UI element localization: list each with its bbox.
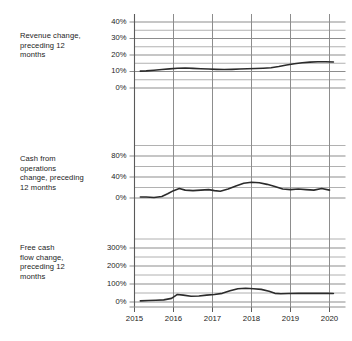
data-line-panel-3	[140, 288, 333, 301]
x-tick-label-2019: 2019	[271, 314, 311, 323]
x-tick-label-2015: 2015	[115, 314, 155, 323]
y-tick-label-panel-3-0: 0%	[60, 298, 127, 306]
y-tick-label-panel-1-0: 0%	[60, 84, 127, 92]
data-line-panel-2	[140, 182, 329, 197]
x-tick-label-2020: 2020	[310, 314, 350, 323]
financial-growth-chart-figure: 0%10%20%30%40%0%40%80%0%100%200%300%2015…	[0, 0, 352, 341]
y-tick-label-panel-2-0: 0%	[60, 194, 127, 202]
y-tick-label-panel-1-1: 10%	[60, 67, 127, 75]
panel-label-1: Revenue change, preceding 12 months	[20, 31, 98, 60]
panel-label-2: Cash from operations change, preceding 1…	[20, 154, 98, 192]
x-tick-label-2017: 2017	[193, 314, 233, 323]
y-tick-label-panel-1-4: 40%	[60, 18, 127, 26]
panel-label-3: Free cash flow change, preceding 12 mont…	[20, 243, 98, 281]
x-tick-label-2016: 2016	[154, 314, 194, 323]
x-tick-label-2018: 2018	[232, 314, 272, 323]
